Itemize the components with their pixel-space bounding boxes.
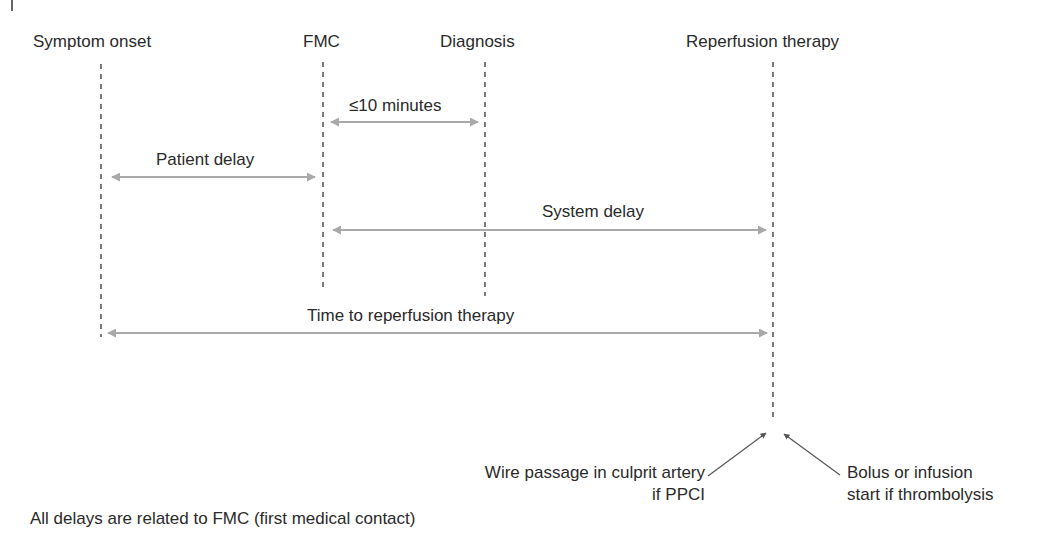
fmc-to-diagnosis-label: ≤10 minutes xyxy=(349,96,442,116)
footnote: All delays are related to FMC (first med… xyxy=(30,509,415,529)
thrombolysis-annotation-line1: Bolus or infusion xyxy=(847,463,973,483)
time-to-reperfusion-label: Time to reperfusion therapy xyxy=(307,306,514,326)
ppci-annotation-line2: if PPCI xyxy=(652,485,705,505)
system-delay-label: System delay xyxy=(542,202,644,222)
ppci-pointer-arrow xyxy=(708,433,766,476)
thrombolysis-annotation-line2: start if thrombolysis xyxy=(847,485,993,505)
fmc-label: FMC xyxy=(303,32,340,52)
patient-delay-label: Patient delay xyxy=(156,150,254,170)
ppci-annotation-line1: Wire passage in culprit artery xyxy=(485,463,705,483)
diagnosis-label: Diagnosis xyxy=(440,32,515,52)
symptom-onset-label: Symptom onset xyxy=(33,32,151,52)
thrombolysis-pointer-arrow xyxy=(784,434,840,475)
reperfusion-therapy-label: Reperfusion therapy xyxy=(686,32,839,52)
